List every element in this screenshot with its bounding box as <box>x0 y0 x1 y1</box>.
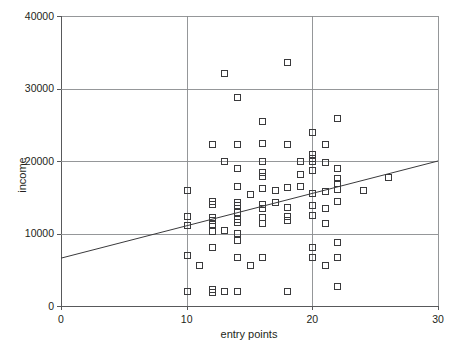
data-point <box>323 263 329 269</box>
data-point <box>235 184 241 190</box>
y-axis-title: income <box>16 157 28 192</box>
data-point <box>235 289 241 295</box>
x-tick-label-10: 10 <box>181 313 193 325</box>
data-point <box>260 255 266 261</box>
data-point <box>210 222 216 228</box>
data-point <box>285 60 291 66</box>
data-point <box>335 284 341 290</box>
data-point <box>323 221 329 227</box>
scatter-plot-figure: 010000200003000040000 0102030 income ent… <box>0 0 457 346</box>
data-point <box>235 238 241 244</box>
data-point <box>285 142 291 148</box>
data-point <box>285 205 291 211</box>
data-point <box>235 95 241 101</box>
y-tick-label-10000: 10000 <box>25 227 54 239</box>
data-point <box>210 245 216 251</box>
data-point <box>260 221 266 227</box>
x-tick-label-0: 0 <box>58 313 64 325</box>
data-point <box>248 192 254 198</box>
regression-trend-line <box>61 161 438 258</box>
y-tick-labels: 010000200003000040000 <box>25 10 54 312</box>
data-point <box>285 289 291 295</box>
data-point <box>260 141 266 147</box>
data-point <box>323 206 329 212</box>
data-point <box>197 263 203 269</box>
y-tick-label-30000: 30000 <box>25 82 54 94</box>
data-point <box>260 174 266 180</box>
data-point <box>335 166 341 172</box>
data-point <box>323 142 329 148</box>
data-point <box>260 119 266 125</box>
x-axis-title: entry points <box>221 328 278 340</box>
data-point <box>335 240 341 246</box>
y-tick-label-20000: 20000 <box>25 155 54 167</box>
data-point <box>260 215 266 221</box>
data-point <box>361 188 367 194</box>
x-tick-labels: 0102030 <box>58 313 444 325</box>
data-point <box>285 218 291 224</box>
data-point <box>222 289 228 295</box>
x-tick-label-30: 30 <box>432 313 444 325</box>
data-point <box>273 188 279 194</box>
data-point <box>210 229 216 235</box>
data-point <box>285 214 291 220</box>
data-point <box>222 71 228 77</box>
data-point <box>298 172 304 178</box>
data-point <box>260 170 266 176</box>
data-point <box>248 263 254 269</box>
y-tick-label-0: 0 <box>48 300 54 312</box>
data-point-markers <box>185 60 392 296</box>
data-point <box>323 160 329 166</box>
data-point <box>235 166 241 172</box>
data-point <box>235 231 241 237</box>
data-point <box>335 116 341 122</box>
x-tick-label-20: 20 <box>306 313 318 325</box>
data-point <box>235 255 241 261</box>
plot-canvas: 010000200003000040000 0102030 income ent… <box>0 0 457 346</box>
data-point <box>335 255 341 261</box>
y-tick-label-40000: 40000 <box>25 10 54 22</box>
data-point <box>235 142 241 148</box>
data-point <box>210 142 216 148</box>
data-point <box>386 175 392 181</box>
trend-line-segment <box>61 161 438 258</box>
data-point <box>298 184 304 190</box>
data-point <box>222 228 228 234</box>
data-point <box>335 199 341 205</box>
data-point <box>260 186 266 192</box>
data-point <box>285 185 291 191</box>
